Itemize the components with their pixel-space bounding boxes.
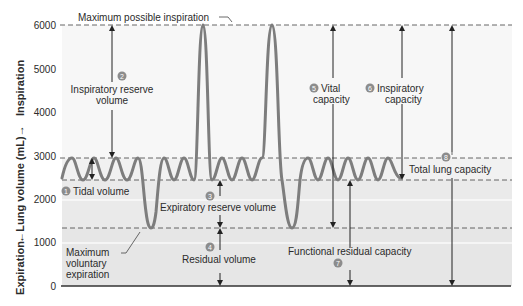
label-residual-volume: Residual volume xyxy=(182,254,256,265)
tick-1000: 1000 xyxy=(34,237,57,248)
label-max-inspiration: Maximum possible inspiration xyxy=(78,12,209,23)
tick-2000: 2000 xyxy=(34,194,57,205)
svg-text:3: 3 xyxy=(208,193,212,200)
tick-5000: 5000 xyxy=(34,64,57,75)
label-irv-1: Inspiratory reserve xyxy=(71,84,154,95)
y-axis-label: Inspiration ←Lung volume (mL)→ Expiratio… xyxy=(14,60,26,295)
tick-6000: 6000 xyxy=(34,20,57,31)
badge-2: 2 xyxy=(118,72,127,81)
tick-0: 0 xyxy=(50,281,56,292)
svg-text:1: 1 xyxy=(64,188,68,195)
badge-7: 7 xyxy=(334,259,343,268)
badge-4: 4 xyxy=(206,243,215,252)
spirogram-diagram: 6000 5000 4000 3000 2000 1000 0 Inspirat… xyxy=(0,0,523,306)
svg-text:8: 8 xyxy=(444,154,448,161)
label-max-expiration-1: Maximum xyxy=(66,247,109,258)
label-vc-2: capacity xyxy=(313,94,350,105)
svg-text:7: 7 xyxy=(336,260,340,267)
label-ic-2: capacity xyxy=(385,94,422,105)
label-tidal-volume: Tidal volume xyxy=(73,186,130,197)
ylabel-inspiration: Inspiration xyxy=(14,60,26,117)
svg-text:4: 4 xyxy=(208,244,212,251)
y-ticks: 6000 5000 4000 3000 2000 1000 0 xyxy=(34,20,57,292)
badge-1: 1 xyxy=(62,187,71,196)
badge-5: 5 xyxy=(310,84,319,93)
label-max-expiration-2: voluntary xyxy=(66,258,107,269)
svg-text:2: 2 xyxy=(120,73,124,80)
svg-text:5: 5 xyxy=(312,85,316,92)
label-irv-2: volume xyxy=(96,95,129,106)
badge-3: 3 xyxy=(206,192,215,201)
label-tlc: Total lung capacity xyxy=(409,164,491,175)
label-erv: Expiratory reserve volume xyxy=(160,202,277,213)
ylabel-lung-volume: ←Lung volume (mL)→ xyxy=(14,125,26,242)
tick-3000: 3000 xyxy=(34,151,57,162)
svg-text:6: 6 xyxy=(368,85,372,92)
tick-4000: 4000 xyxy=(34,107,57,118)
label-vc-1: Vital xyxy=(321,83,340,94)
label-frc: Functional residual capacity xyxy=(288,246,411,257)
badge-6: 6 xyxy=(366,84,375,93)
band-rv xyxy=(62,228,512,286)
ylabel-expiration: Expiration xyxy=(14,241,26,295)
label-ic-1: Inspiratory xyxy=(377,83,424,94)
badge-8: 8 xyxy=(442,153,451,162)
label-max-expiration-3: expiration xyxy=(66,269,109,280)
